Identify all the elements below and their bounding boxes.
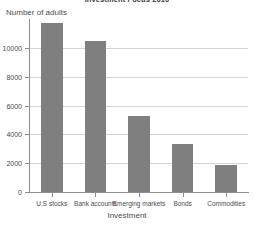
gridline: [30, 106, 248, 107]
y-tick-label: 8000: [6, 73, 22, 80]
x-tick-label: Emerging markets: [113, 200, 166, 207]
bar: [41, 23, 63, 192]
x-tick-mark: [52, 193, 53, 197]
plot-area: [30, 19, 248, 192]
x-tick-mark: [139, 193, 140, 197]
gridline: [30, 48, 248, 49]
x-tick-label: U.S stocks: [36, 200, 67, 207]
y-tick-label: 6000: [6, 102, 22, 109]
bar-chart-figure: Investment Focus 2010 Number of adults 0…: [0, 0, 254, 228]
y-tick-mark: [25, 163, 30, 164]
x-tick-label: Bank accounts: [74, 200, 117, 207]
y-tick-mark: [25, 192, 30, 193]
y-axis-title: Number of adults: [6, 8, 67, 17]
y-tick-label: 2000: [6, 160, 22, 167]
x-tick-label: Bonds: [173, 200, 191, 207]
chart-title: Investment Focus 2010: [0, 0, 254, 4]
y-tick-label: 4000: [6, 131, 22, 138]
y-tick-mark: [25, 77, 30, 78]
x-tick-mark: [183, 193, 184, 197]
y-tick-label: 10000: [3, 44, 22, 51]
bar: [215, 165, 237, 192]
x-tick-label: Commodities: [207, 200, 245, 207]
y-tick-mark: [25, 106, 30, 107]
bar: [85, 41, 107, 192]
x-tick-mark: [95, 193, 96, 197]
y-tick-label: 0: [18, 189, 22, 196]
gridline: [30, 77, 248, 78]
bar: [128, 116, 150, 192]
bar: [172, 144, 194, 192]
x-axis-title: Investment: [0, 211, 254, 220]
y-tick-mark: [25, 48, 30, 49]
y-tick-mark: [25, 134, 30, 135]
x-tick-mark: [226, 193, 227, 197]
